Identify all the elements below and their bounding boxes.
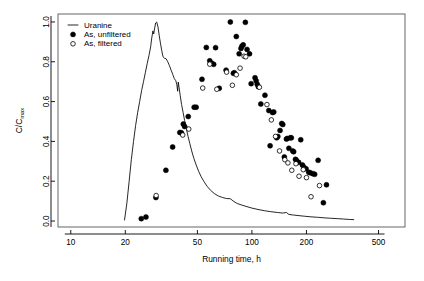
y-axis-title-base: C/C — [14, 119, 24, 133]
data-point — [194, 105, 199, 110]
data-point — [286, 161, 291, 166]
x-tick-label: 500 — [372, 238, 386, 247]
x-tick-label: 200 — [300, 238, 314, 247]
data-point — [309, 194, 314, 199]
data-point — [271, 109, 276, 114]
x-axis-group: 102050100200500 — [65, 230, 386, 247]
data-point — [297, 174, 302, 179]
data-point — [317, 183, 322, 188]
data-point — [243, 55, 248, 60]
y-tick-label: 0.2 — [43, 175, 52, 187]
legend-label: As, filtered — [84, 39, 122, 48]
data-point — [291, 149, 296, 154]
data-point — [224, 70, 229, 75]
data-point — [316, 158, 321, 163]
data-point — [249, 81, 254, 86]
y-tick-label: 1.0 — [43, 16, 52, 28]
data-point — [143, 215, 148, 220]
data-point — [154, 193, 159, 198]
data-point — [278, 128, 283, 133]
data-point — [312, 172, 317, 177]
legend-label: As, unfiltered — [84, 30, 131, 39]
data-point — [289, 168, 294, 173]
data-point — [258, 101, 263, 106]
data-point — [204, 45, 209, 50]
data-point — [277, 149, 282, 154]
legend-group: UranineAs, unfilteredAs, filtered — [68, 21, 131, 49]
data-point — [324, 182, 329, 187]
x-axis-title: Running time, h — [202, 254, 261, 264]
data-point — [262, 93, 267, 98]
data-point — [213, 45, 218, 50]
data-point — [186, 114, 191, 119]
data-point — [280, 122, 285, 127]
y-axis-title-subscript: max — [19, 108, 25, 119]
data-point — [265, 102, 270, 107]
data-point — [215, 87, 220, 92]
series-as-unfiltered-points — [139, 19, 329, 221]
data-point — [170, 144, 175, 149]
data-point — [273, 134, 278, 139]
chart-canvas: 102050100200500 0.00.20.40.60.81.0 Urani… — [0, 0, 424, 281]
data-point — [268, 143, 273, 148]
data-point — [200, 86, 205, 91]
y-tick-label: 0.6 — [43, 95, 52, 107]
data-point — [301, 167, 306, 172]
x-tick-label: 50 — [193, 238, 203, 247]
data-point — [321, 200, 326, 205]
data-point — [234, 72, 239, 77]
data-point — [228, 19, 233, 24]
data-point — [241, 42, 246, 47]
y-tick-label: 0.0 — [43, 215, 52, 227]
data-point — [304, 175, 309, 180]
data-point — [230, 83, 235, 88]
data-point — [199, 77, 204, 82]
x-tick-label: 100 — [245, 238, 259, 247]
data-point — [243, 20, 248, 25]
figure-container: 102050100200500 0.00.20.40.60.81.0 Urani… — [0, 0, 424, 281]
data-point — [180, 133, 185, 138]
legend-filled-circle-swatch — [71, 32, 76, 37]
y-tick-label: 0.8 — [43, 56, 52, 68]
data-point — [289, 135, 294, 140]
data-point — [234, 34, 239, 39]
y-tick-label: 0.4 — [43, 135, 52, 147]
legend-label: Uranine — [84, 21, 113, 30]
y-axis-title: C/Cmax — [14, 108, 25, 133]
data-point — [139, 216, 144, 221]
data-point — [269, 118, 274, 123]
data-point — [298, 137, 303, 142]
data-point — [186, 127, 191, 132]
data-point — [207, 62, 212, 67]
legend-open-circle-swatch — [71, 42, 76, 47]
x-tick-label: 10 — [66, 238, 76, 247]
data-point — [257, 85, 262, 90]
data-point — [294, 161, 299, 166]
data-point — [238, 66, 243, 71]
x-tick-label: 20 — [121, 238, 131, 247]
data-point — [237, 51, 242, 56]
y-axis-group: 0.00.20.40.60.81.0 — [43, 16, 56, 227]
series-as-filtered-points — [154, 54, 322, 199]
data-point — [163, 168, 168, 173]
